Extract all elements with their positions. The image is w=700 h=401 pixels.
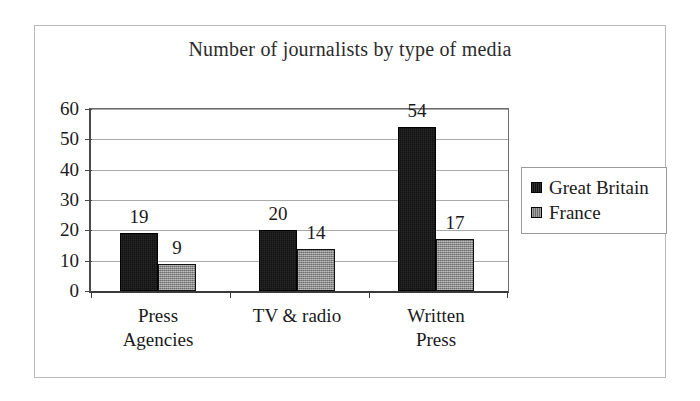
bar-great-britain-written-press[interactable] [398,127,436,291]
plot-area: 6050403020100199Press Agencies2014TV & r… [89,108,509,293]
chart-frame: Number of journalists by type of media 6… [34,25,666,378]
legend-item-france[interactable]: France [531,200,657,225]
legend-label-great-britain: Great Britain [549,177,649,199]
chart-title: Number of journalists by type of media [35,38,665,61]
y-axis-label: 20 [60,219,79,241]
x-axis-tick [369,291,370,298]
y-axis-label: 0 [70,280,80,302]
gridline [91,200,508,201]
y-axis-label: 30 [60,189,79,211]
bar-france-tv-radio[interactable] [297,249,335,291]
legend-item-great-britain[interactable]: Great Britain [531,175,657,200]
bar-value-label: 17 [446,212,465,234]
y-axis-tick [85,261,92,262]
legend-label-france: France [549,202,601,224]
x-axis-tick [230,291,231,298]
bar-value-label: 20 [269,203,288,225]
y-axis-label: 60 [60,98,79,120]
y-axis-tick [85,139,92,140]
y-axis-tick [85,109,92,110]
y-axis-tick [85,170,92,171]
legend-swatch-great-britain [531,182,542,193]
bar-value-label: 54 [408,100,427,122]
x-axis-category-label: TV & radio [253,304,341,328]
bar-value-label: 19 [130,206,149,228]
bar-value-label: 9 [172,237,182,259]
bar-great-britain-press-agencies[interactable] [120,233,158,291]
gridline [91,139,508,140]
gridline [91,170,508,171]
bar-great-britain-tv-radio[interactable] [259,230,297,291]
y-axis-label: 40 [60,158,79,180]
x-axis-category-label: Written Press [400,304,472,352]
y-axis-label: 10 [60,249,79,271]
x-axis-tick [91,291,92,298]
x-axis-category-label: Press Agencies [123,304,194,352]
bar-value-label: 14 [307,222,326,244]
bar-france-press-agencies[interactable] [158,264,196,291]
x-axis-tick [507,291,508,298]
y-axis-tick [85,200,92,201]
chart-legend: Great Britain France [521,167,667,234]
legend-swatch-france [531,207,542,218]
bar-france-written-press[interactable] [436,239,474,291]
gridline [91,109,508,110]
y-axis-label: 50 [60,128,79,150]
y-axis-tick [85,230,92,231]
